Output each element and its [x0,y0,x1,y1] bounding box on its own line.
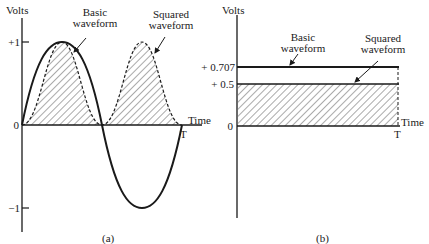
squared-label-a-line2: waveform [144,19,198,31]
caption-b: (b) [316,232,329,244]
tick-label-zero-a: 0 [0,119,19,131]
squared-area-hump-2 [102,42,182,125]
tick-label-plus1: +1 [0,36,20,48]
panel-a-plot [22,18,202,232]
basic-pointer-a [74,38,86,52]
y-axis-label-a: Volts [6,4,28,16]
tick-label-minus1: −1 [0,202,20,214]
tick-label-zero-b: 0 [180,120,233,132]
squared-pointer-b [355,61,378,82]
squared-pointer-a [155,37,165,53]
basic-pointer-b [290,54,298,65]
x-axis-label-b: Time [401,116,424,128]
basic-label-a-line2: waveform [68,17,122,29]
period-label-b: T [394,128,401,140]
basic-label-b-line2: waveform [276,42,330,54]
caption-a: (a) [102,232,114,244]
y-axis-label-b: Volts [222,4,244,16]
squared-label-b-line2: waveform [356,43,410,55]
tick-label-0707: + 0.707 [180,61,235,73]
tick-label-05: + 0.5 [180,78,234,90]
squared-area-b [238,84,398,126]
figure: Volts +1 0 −1 Basic waveform Squared wav… [0,0,429,244]
